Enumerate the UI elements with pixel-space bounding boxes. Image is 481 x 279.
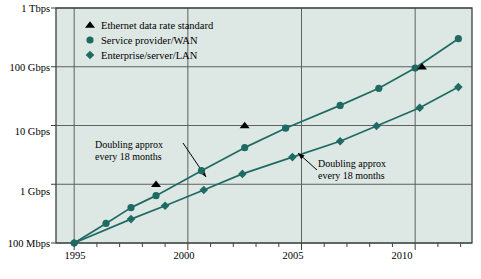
annotation-left-line1: Doubling approx <box>95 139 163 151</box>
data-point-0-1 <box>102 220 109 227</box>
x-tick-label-1995: 1995 <box>59 250 91 261</box>
data-point-0-5 <box>241 144 248 151</box>
y-tick-label-1: 1 Gbps <box>0 186 50 197</box>
x-tick-label-2000: 2000 <box>168 250 200 261</box>
x-tick-label-2010: 2010 <box>386 250 418 261</box>
data-point-0-6 <box>282 125 289 132</box>
plot-svg <box>0 0 481 279</box>
ethernet-data-rate-chart: 1 Tbps 100 Gbps 10 Gbps 1 Gbps 100 Mbps … <box>0 0 481 279</box>
data-point-0-9 <box>412 64 419 71</box>
annotation-right-line1: Doubling approx <box>318 158 386 170</box>
data-point-0-10 <box>455 35 462 42</box>
data-point-0-3 <box>152 192 159 199</box>
y-tick-label-3: 100 Gbps <box>0 62 50 73</box>
x-tick-label-2005: 2005 <box>277 250 309 261</box>
legend-label-service-provider-wan: Service provider/WAN <box>101 35 198 46</box>
annotation-left-line2: every 18 months <box>95 151 163 163</box>
legend-label-enterprise-server-lan: Enterprise/server/LAN <box>101 50 197 61</box>
annotation-left: Doubling approx every 18 months <box>95 139 163 163</box>
data-point-0-8 <box>375 85 382 92</box>
legend-label-ethernet-standard: Ethernet data rate standard <box>101 20 213 31</box>
y-tick-label-2: 10 Gbps <box>0 126 50 137</box>
data-point-0-4 <box>198 167 205 174</box>
legend-marker-circle <box>86 36 93 43</box>
annotation-right-line2: every 18 months <box>318 170 386 182</box>
data-point-0-2 <box>127 204 134 211</box>
y-tick-label-4: 1 Tbps <box>0 3 50 14</box>
y-tick-label-0: 100 Mbps <box>0 238 50 249</box>
annotation-right: Doubling approx every 18 months <box>318 158 386 182</box>
data-point-0-7 <box>337 102 344 109</box>
